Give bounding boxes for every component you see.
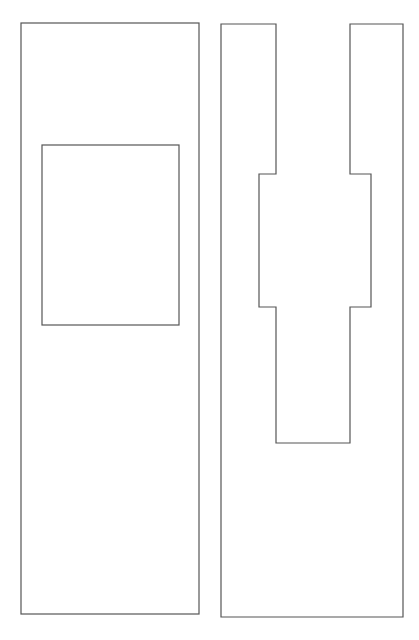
right-panel-outline-with-slot (221, 24, 403, 617)
left-panel-outline (21, 23, 199, 614)
diagram-canvas (0, 0, 419, 640)
left-panel-window (42, 145, 179, 325)
